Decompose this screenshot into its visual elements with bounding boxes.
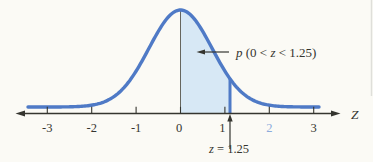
axis-left-arrowhead-icon <box>16 111 26 117</box>
x-axis-ticks <box>47 107 313 114</box>
probability-label: p (0 < z < 1.25) <box>235 45 316 60</box>
x-tick-label-3: 3 <box>311 121 317 135</box>
x-tick-label-1: 1 <box>219 121 225 135</box>
x-tick-label--2: -2 <box>86 121 96 135</box>
shaded-area-0-to-1.25 <box>181 10 231 114</box>
x-tick-label-2: 2 <box>266 121 272 135</box>
x-tick-label-0: 0 <box>176 121 182 135</box>
x-tick-label--1: -1 <box>131 121 141 135</box>
cutoff-label: z = 1.25 <box>208 142 249 156</box>
normal-distribution-figure: -3-2-10123 Z p (0 < z < 1.25) z = 1.25 <box>0 0 373 162</box>
cutoff-arrow-head-icon <box>227 114 232 122</box>
x-axis-title: Z <box>351 107 359 122</box>
x-tick-label--3: -3 <box>42 121 52 135</box>
x-axis-tick-labels: -3-2-10123 <box>42 121 317 135</box>
cutoff-annotation: z = 1.25 <box>208 114 249 156</box>
normal-curve-svg: -3-2-10123 Z p (0 < z < 1.25) z = 1.25 <box>0 0 373 162</box>
axis-right-arrowhead-icon <box>331 111 341 117</box>
